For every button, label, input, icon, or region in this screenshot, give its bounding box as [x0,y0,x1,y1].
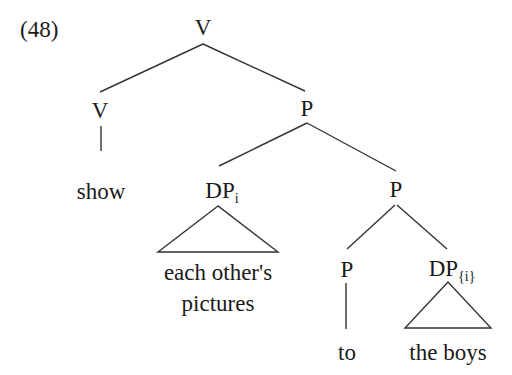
leaf-to: to [338,341,356,364]
dp-i-label: DP [205,178,234,203]
leaf-the-boys: the boys [409,341,486,364]
node-root-v: V [195,16,212,39]
node-dp-i: DPi [205,179,238,206]
dp-index: {i} [458,269,475,284]
node-v: V [92,99,109,122]
dp-i-index: i [235,191,239,206]
leaf-each-others: each other's [164,261,272,284]
example-number: (48) [20,17,58,43]
leaf-show: show [77,180,126,203]
node-dp-index: DP{i} [429,257,476,284]
node-p3: P [341,258,354,281]
dp-label: DP [429,256,458,281]
node-p1: P [301,97,314,120]
leaf-pictures: pictures [182,292,255,315]
node-p2: P [390,178,403,201]
